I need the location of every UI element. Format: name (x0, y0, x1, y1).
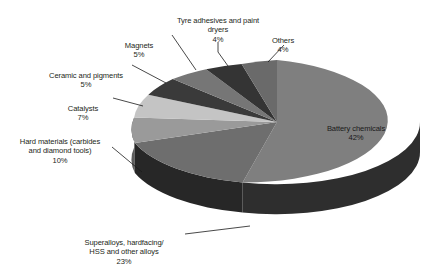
label-ceramic-pigments-name: Ceramic and pigments (49, 71, 123, 80)
label-tyre-adhesives-name: Tyre adhesives and paint dryers (177, 16, 259, 35)
label-ceramic-pigments-pct: 5% (38, 80, 134, 90)
label-catalysts-name: Catalysts (68, 104, 98, 113)
label-superalloys-pct: 23% (62, 257, 186, 267)
label-battery-chemicals-pct: 42% (306, 133, 406, 143)
label-hard-materials-pct: 10% (8, 156, 112, 166)
label-battery-chemicals: Battery chemicals 42% (306, 114, 406, 152)
label-battery-chemicals-name: Battery chemicals (327, 124, 385, 133)
label-others: Others 4% (253, 26, 313, 64)
pie-chart: Tyre adhesives and paint dryers 4% Other… (0, 0, 439, 271)
leader-line-superalloys (185, 226, 250, 234)
label-magnets-name: Magnets (125, 41, 153, 50)
label-hard-materials-name: Hard materials (carbides and diamond too… (20, 137, 100, 156)
label-hard-materials: Hard materials (carbides and diamond too… (8, 127, 112, 175)
label-others-pct: 4% (253, 45, 313, 55)
label-others-name: Others (272, 36, 294, 45)
label-magnets-pct: 5% (108, 50, 170, 60)
label-superalloys: Superalloys, hardfacing/ HSS and other a… (62, 228, 186, 271)
label-superalloys-name: Superalloys, hardfacing/ HSS and other a… (84, 238, 163, 257)
label-catalysts-pct: 7% (54, 113, 112, 123)
